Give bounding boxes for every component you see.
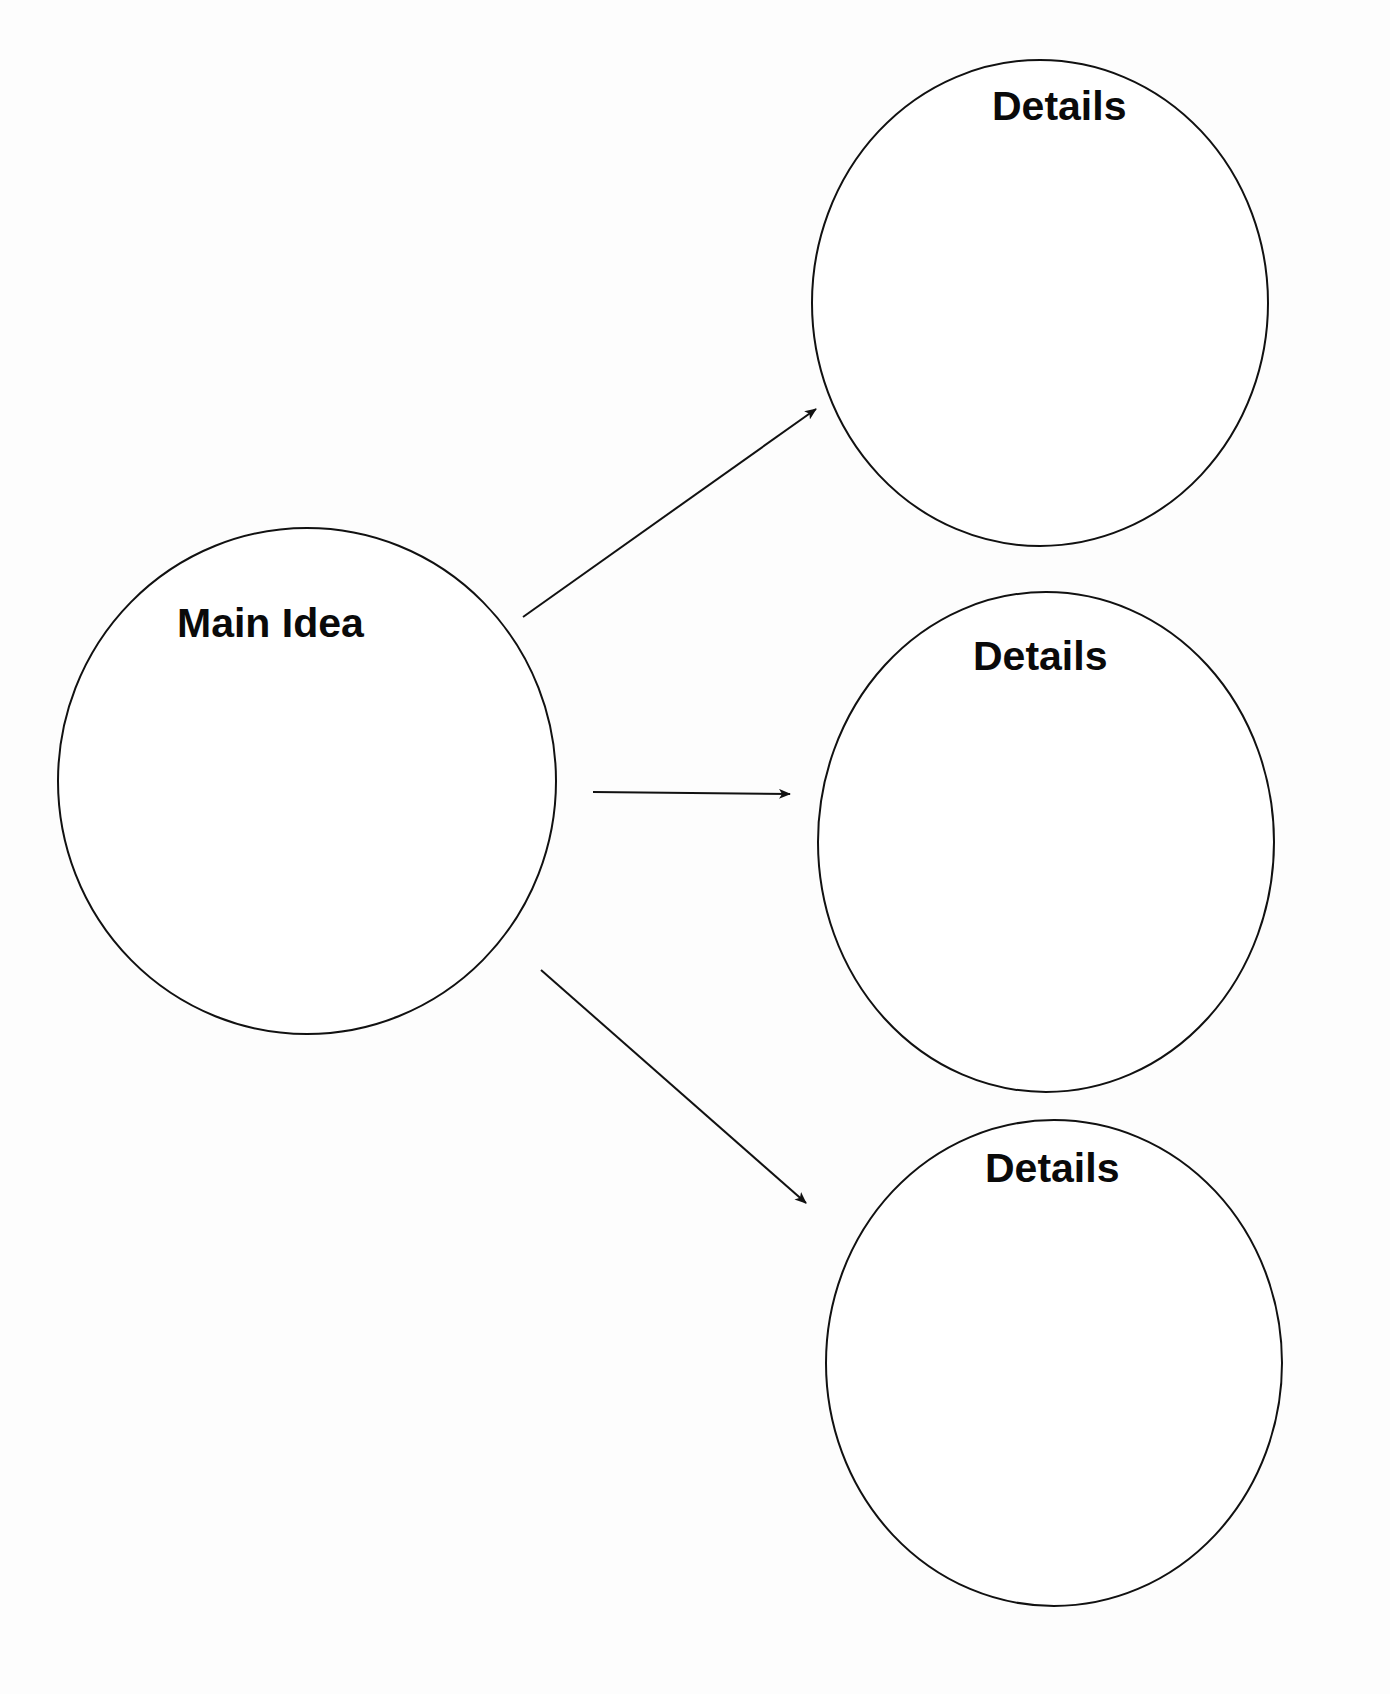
graphic-organizer-diagram: Main Idea Details Details Details (0, 0, 1390, 1694)
arrow-main-to-details-2 (593, 792, 790, 794)
arrow-main-to-details-3 (541, 970, 806, 1203)
details-label-2: Details (973, 633, 1107, 679)
details-circle-1[interactable] (812, 60, 1268, 546)
arrow-main-to-details-1 (523, 409, 816, 617)
details-label-3: Details (985, 1145, 1119, 1191)
connectors (523, 409, 816, 1203)
main-idea-label: Main Idea (177, 600, 365, 646)
main-idea-node[interactable]: Main Idea (58, 528, 556, 1034)
details-node-1[interactable]: Details (812, 60, 1268, 546)
details-node-3[interactable]: Details (826, 1120, 1282, 1606)
details-label-1: Details (992, 83, 1126, 129)
details-node-2[interactable]: Details (818, 592, 1274, 1092)
details-circle-3[interactable] (826, 1120, 1282, 1606)
